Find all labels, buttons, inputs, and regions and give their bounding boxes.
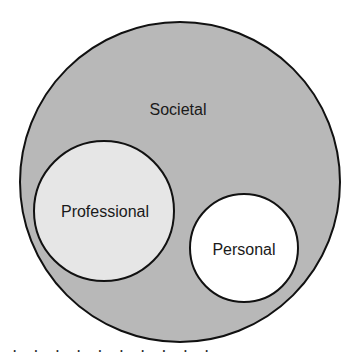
cropped-caption-text: · · · · · · · · · · — [0, 346, 355, 356]
cropped-caption: · · · · · · · · · · — [0, 346, 355, 356]
venn-diagram: Societal Professional Personal — [0, 0, 355, 356]
societal-label: Societal — [150, 101, 207, 118]
professional-label: Professional — [61, 203, 149, 220]
personal-label: Personal — [212, 241, 275, 258]
